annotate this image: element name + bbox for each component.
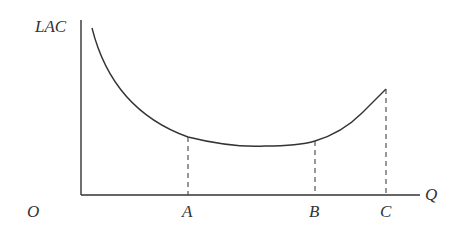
lac-diagram: LAC Q O A B C — [0, 0, 469, 225]
diagram-canvas: LAC Q O A B C — [0, 0, 469, 225]
y-axis-label: LAC — [34, 17, 67, 36]
origin-label: O — [27, 202, 39, 221]
lac-curve — [92, 28, 386, 146]
x-axis-label: Q — [425, 185, 437, 204]
point-label-c: C — [380, 202, 392, 221]
point-label-a: A — [181, 202, 193, 221]
point-label-b: B — [309, 202, 320, 221]
